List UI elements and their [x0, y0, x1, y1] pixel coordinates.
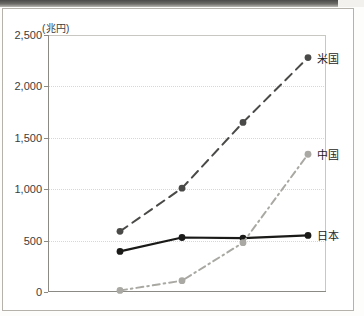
marker-usa-3: [305, 54, 312, 61]
y-axis-label-2500: 2,500: [14, 29, 42, 41]
y-axis-tick-labels: 2,5002,0001,5001,0005000: [0, 35, 42, 292]
marker-usa-2: [240, 119, 247, 126]
y-axis-label-1000: 1,000: [14, 183, 42, 195]
y-axis-unit-label: (兆円): [42, 20, 69, 35]
marker-china-0: [117, 287, 124, 294]
marker-china-2: [240, 239, 247, 246]
chart-screenshot: (兆円) 2,5002,0001,5001,0005000 米国日本中国: [0, 0, 364, 316]
y-axis-label-500: 500: [24, 235, 42, 247]
marker-china-3: [305, 151, 312, 158]
series-lines: [48, 35, 326, 292]
y-axis-label-1500: 1,500: [14, 132, 42, 144]
y-axis-label-2000: 2,000: [14, 80, 42, 92]
scan-edge-band: [0, 0, 364, 7]
line-japan: [120, 235, 308, 251]
marker-usa-0: [117, 228, 124, 235]
marker-japan-1: [179, 234, 186, 241]
series-label-japan: 日本: [317, 227, 339, 243]
marker-japan-3: [305, 232, 312, 239]
y-axis-label-0: 0: [36, 286, 42, 298]
y-tick-0: [44, 292, 48, 293]
series-label-usa: 米国: [317, 50, 339, 66]
line-usa: [120, 58, 308, 232]
series-label-china: 中国: [317, 146, 339, 162]
marker-japan-0: [117, 248, 124, 255]
scan-edge-band-right: [338, 0, 364, 7]
marker-usa-1: [179, 185, 186, 192]
line-china: [120, 154, 308, 290]
marker-china-1: [179, 277, 186, 284]
plot-area: [48, 35, 326, 292]
